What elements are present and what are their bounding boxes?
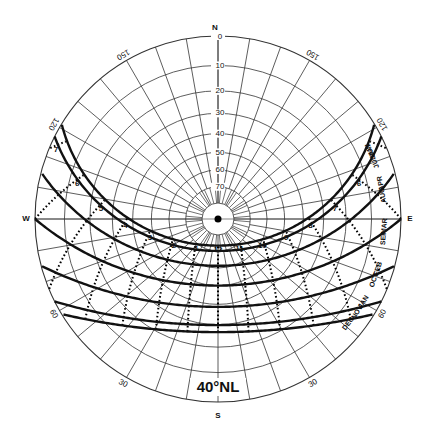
hour-line (241, 245, 249, 332)
hour-label-am-11: 11 (235, 244, 244, 253)
azimuth-label: 60 (376, 307, 389, 320)
azimuth-line-minor (187, 223, 203, 227)
azimuth-label: 120 (46, 116, 61, 133)
hour-label-pm-6: 6 (75, 179, 80, 188)
azimuth-line-minor (195, 230, 206, 241)
azimuth-line-minor (229, 196, 240, 207)
altitude-label-30: 30 (216, 108, 225, 117)
azimuth-label: 150 (304, 47, 321, 62)
azimuth-line-minor (222, 234, 226, 250)
azimuth-line (155, 249, 207, 391)
altitude-label-0: 0 (218, 32, 223, 41)
west-label: W (22, 214, 30, 223)
hour-label-am-9: 9 (284, 233, 289, 242)
hour-label-pm-7: 7 (54, 145, 59, 154)
azimuth-label: 150 (115, 48, 132, 63)
hour-label-pm-5: 5 (99, 204, 104, 213)
east-label: E (407, 214, 413, 223)
azimuth-label: 30 (117, 377, 130, 390)
altitude-label-60: 60 (216, 165, 225, 174)
azimuth-line (229, 249, 281, 391)
hour-label-am-6: 6 (357, 179, 362, 188)
azimuth-line-minor (233, 223, 249, 227)
altitude-label-20: 20 (216, 86, 225, 95)
north-label: N (212, 23, 218, 32)
hour-label-am-7: 7 (333, 204, 338, 213)
altitude-label-40: 40 (216, 129, 225, 138)
sun-path-diagram: 1234567111098761201020304050607015015060… (0, 0, 428, 445)
hour-label-am-10: 10 (258, 241, 267, 250)
month-label-sep: SEP (379, 230, 387, 245)
zenith-dot (215, 216, 222, 223)
azimuth-line (155, 47, 207, 189)
azimuth-label: 120 (375, 116, 390, 133)
azimuth-label: 60 (48, 308, 61, 321)
azimuth-label: 30 (307, 377, 320, 390)
hour-label-pm-3: 3 (148, 233, 153, 242)
azimuth-line-minor (187, 211, 203, 215)
azimuth-line-minor (195, 196, 206, 207)
hour-label-pm-1: 1 (194, 244, 199, 253)
hour-label-pm-2: 2 (171, 241, 176, 250)
hour-label-noon: 12 (214, 245, 223, 254)
hour-label-pm-4: 4 (123, 221, 128, 230)
sun-path-chart: 1234567111098761201020304050607015015060… (0, 0, 428, 445)
azimuth-line (38, 187, 186, 213)
azimuth-line-minor (234, 220, 250, 221)
azimuth-line (186, 39, 212, 187)
latitude-title: 40°NL (197, 378, 240, 395)
altitude-label-10: 10 (216, 61, 225, 70)
azimuth-line (224, 39, 250, 187)
azimuth-line-minor (229, 230, 240, 241)
azimuth-line-minor (234, 216, 250, 217)
south-label: S (215, 411, 221, 420)
altitude-label-50: 50 (216, 148, 225, 157)
azimuth-line-minor (186, 216, 202, 217)
hour-line (187, 245, 195, 332)
azimuth-line-minor (186, 220, 202, 221)
azimuth-line (229, 47, 281, 189)
altitude-label-70: 70 (216, 182, 225, 191)
azimuth-line (250, 187, 398, 213)
azimuth-line-minor (233, 211, 249, 215)
month-label-oct: OCT (368, 271, 380, 288)
hour-label-am-8: 8 (308, 221, 313, 230)
